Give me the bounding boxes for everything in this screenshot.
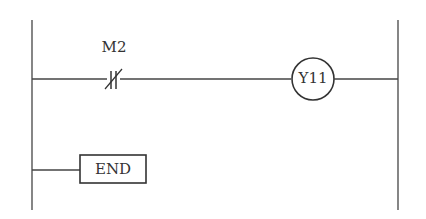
- end-label: END: [80, 160, 146, 178]
- contact-label: M2: [96, 38, 132, 56]
- normally-closed-contact-icon: [105, 69, 122, 89]
- coil-label: Y11: [293, 69, 333, 87]
- ladder-diagram: [0, 0, 426, 219]
